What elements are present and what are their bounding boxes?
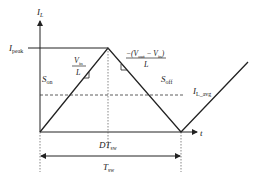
on-slope-numerator: Vin (74, 56, 83, 66)
ipeak-label: Ipeak (8, 43, 23, 54)
s-off-label: Soff (161, 74, 172, 85)
waveform-svg: IL Ipeak Son Vin L −(Vout − Vin) L Soff … (0, 0, 253, 175)
on-slope-denominator: L (75, 68, 81, 77)
x-axis-label: t (200, 128, 203, 138)
d-tsw-label: DTsw (98, 140, 117, 151)
off-slope-numerator: −(Vout − Vin) (126, 49, 165, 59)
off-slope-denominator: L (143, 60, 149, 69)
tsw-label: Tsw (103, 162, 114, 173)
s-on-label: Son (42, 74, 53, 85)
inductor-current-waveform-diagram: IL Ipeak Son Vin L −(Vout − Vin) L Soff … (0, 0, 253, 175)
y-axis-label: IL (36, 7, 44, 18)
i-avg-label: IL_avg (192, 86, 211, 97)
